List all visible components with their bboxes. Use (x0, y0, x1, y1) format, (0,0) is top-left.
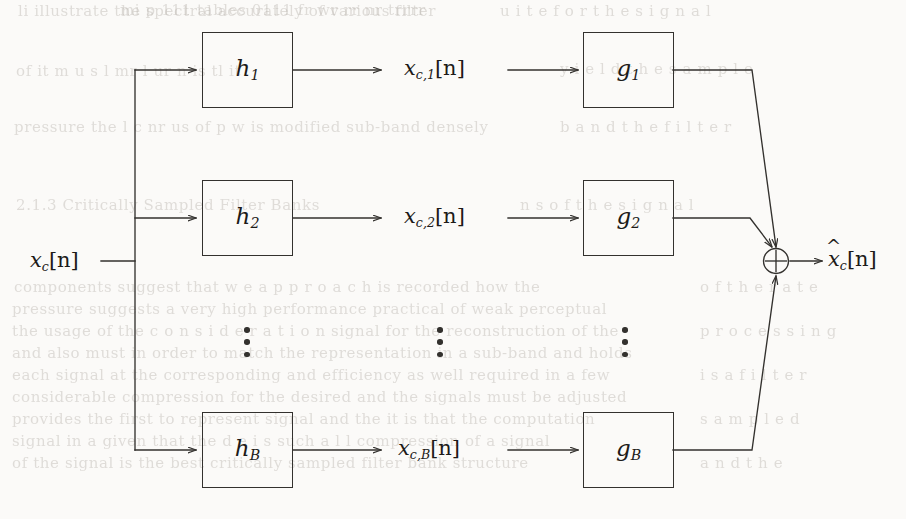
block-diagram: h1 h2 hB g1 g2 gB xc[n] xc,1[n] xc,2[n] … (0, 0, 906, 519)
synthesis-filter-g2-label: g2 (617, 205, 641, 230)
synthesis-filter-block-g1[interactable]: g1 (583, 32, 674, 108)
hat-accent-icon: ^ (826, 238, 841, 256)
analysis-filter-block-h2[interactable]: h2 (202, 180, 293, 256)
vertical-dots-icon-synthesis (622, 327, 628, 357)
gB-to-adder (673, 276, 776, 450)
synthesis-filter-block-gB[interactable]: gB (583, 412, 674, 488)
subband-signal-label-1: xc,1[n] (404, 58, 465, 81)
figure-canvas: li illustrate the spectral accurately of… (0, 0, 906, 519)
input-signal-label: xc[n] (30, 250, 79, 273)
g1-to-adder (673, 70, 776, 247)
output-signal-label: ^xc[n] (828, 249, 877, 272)
synthesis-filter-g1-label: g1 (617, 57, 641, 82)
analysis-filter-block-h1[interactable]: h1 (202, 32, 293, 108)
analysis-filter-h2-label: h2 (236, 205, 260, 230)
analysis-filter-block-hB[interactable]: hB (202, 412, 293, 488)
synthesis-filter-gB-label: gB (616, 437, 641, 462)
vertical-dots-icon-analysis (244, 327, 250, 357)
analysis-filter-h1-label: h1 (236, 57, 260, 82)
synthesis-filter-block-g2[interactable]: g2 (583, 180, 674, 256)
subband-signal-label-B: xc,B[n] (398, 438, 460, 461)
subband-signal-label-2: xc,2[n] (404, 206, 465, 229)
vertical-dots-icon-subband (437, 327, 443, 357)
analysis-filter-hB-label: hB (235, 437, 260, 462)
g2-to-adder (673, 218, 772, 247)
